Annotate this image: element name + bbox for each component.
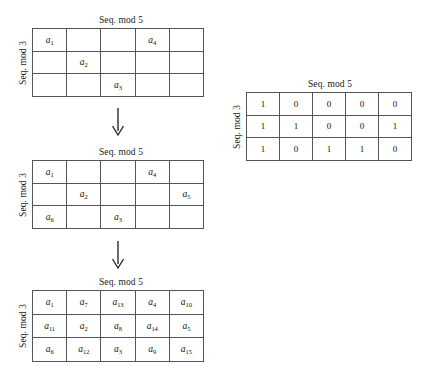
- table-row: a11 a2 a8 a14 a5: [33, 314, 204, 338]
- cell-value: a2: [80, 190, 88, 200]
- grid-cell: 1: [247, 93, 280, 116]
- cell-value: 0: [294, 100, 299, 109]
- grid-cell: a4: [135, 161, 169, 184]
- cell-value: a12: [78, 345, 89, 355]
- grid-cell: a5: [169, 183, 203, 206]
- table-row: a6 a3: [33, 206, 204, 229]
- grid-cell: a6: [33, 206, 67, 229]
- grid-cell: a2: [67, 314, 101, 338]
- table-row: a3: [33, 74, 204, 97]
- cell-value: a2: [80, 322, 88, 332]
- grid-cell: 0: [346, 115, 379, 138]
- table-row: 1 0 1 1 0: [247, 138, 412, 161]
- grid-cell: a8: [101, 314, 135, 338]
- column-axis-label-4: Seq. mod 5: [246, 78, 414, 90]
- grid-cell: a4: [135, 291, 169, 315]
- cell-value: a1: [46, 298, 54, 308]
- grid-cell: a7: [67, 291, 101, 315]
- cell-value: 1: [261, 145, 266, 154]
- cell-value: 0: [327, 122, 332, 131]
- grid-cell: 1: [247, 138, 280, 161]
- cell-value: a6: [46, 213, 54, 223]
- grid-cell: [101, 183, 135, 206]
- cell-value: a3: [114, 81, 122, 91]
- grid-cell: a9: [135, 338, 169, 362]
- grid-cell: 1: [313, 138, 346, 161]
- grid-table-2: a1 a4 a2 a5 a6 a3: [32, 160, 204, 229]
- row-axis-label-3: Seq. mod 3: [18, 304, 28, 348]
- arrow-down-2: [106, 240, 130, 270]
- grid-cell: 0: [313, 93, 346, 116]
- column-axis-label-1: Seq. mod 5: [32, 14, 210, 26]
- grid-cell: 1: [379, 115, 412, 138]
- table-row: a6 a12 a3 a9 a15: [33, 338, 204, 362]
- grid-area-2: Seq. mod 3 a1 a4 a2 a5: [32, 160, 204, 229]
- grid-table-3: a1 a7 a13 a4 a10 a11 a2 a8 a14 a5 a6 a12…: [32, 290, 204, 362]
- grid-cell: 0: [280, 138, 313, 161]
- grid-cell: a3: [101, 74, 135, 97]
- grid-cell: [101, 51, 135, 74]
- grid-cell: [169, 206, 203, 229]
- grid-cell: 1: [346, 138, 379, 161]
- cell-value: a11: [44, 322, 55, 332]
- grid-cell: [67, 74, 101, 97]
- cell-value: a13: [112, 298, 123, 308]
- panel-grid-step-1: Seq. mod 5 Seq. mod 3 a1 a4 a2: [14, 14, 210, 100]
- grid-cell: [67, 206, 101, 229]
- cell-value: 0: [360, 122, 365, 131]
- cell-value: 1: [327, 145, 332, 154]
- row-axis-label-wrap-2: Seq. mod 3: [15, 160, 31, 229]
- cell-value: 1: [393, 122, 398, 131]
- cell-value: a15: [181, 345, 192, 355]
- grid-cell: a13: [101, 291, 135, 315]
- row-axis-label-2: Seq. mod 3: [18, 172, 28, 216]
- row-axis-label-wrap-4: Seq. mod 3: [229, 92, 245, 161]
- grid-cell: 0: [280, 93, 313, 116]
- grid-cell: [33, 74, 67, 97]
- row-axis-label-1: Seq. mod 3: [18, 40, 28, 84]
- grid-cell: [169, 161, 203, 184]
- grid-cell: a1: [33, 291, 67, 315]
- grid-cell: a1: [33, 161, 67, 184]
- grid-cell: [135, 206, 169, 229]
- cell-value: 1: [261, 100, 266, 109]
- grid-cell: [67, 161, 101, 184]
- grid-cell: 0: [313, 115, 346, 138]
- cell-value: a4: [148, 298, 156, 308]
- grid-cell: a11: [33, 314, 67, 338]
- cell-value: a4: [148, 168, 156, 178]
- grid-cell: [135, 74, 169, 97]
- cell-value: a3: [114, 345, 122, 355]
- panel-grid-step-2: Seq. mod 5 Seq. mod 3 a1 a4 a2 a5: [14, 146, 210, 232]
- row-axis-label-wrap-3: Seq. mod 3: [15, 290, 31, 362]
- grid-cell: [169, 74, 203, 97]
- grid-area-1: Seq. mod 3 a1 a4 a2: [32, 28, 204, 97]
- column-axis-label-2: Seq. mod 5: [32, 146, 210, 158]
- cell-value: 0: [393, 100, 398, 109]
- grid-table-1: a1 a4 a2 a3: [32, 28, 204, 97]
- cell-value: 0: [360, 100, 365, 109]
- grid-table-4: 1 0 0 0 0 1 1 0 0 1 1 0 1 1: [246, 92, 412, 161]
- cell-value: a5: [182, 322, 190, 332]
- grid-cell: 1: [280, 115, 313, 138]
- grid-cell: [101, 29, 135, 52]
- grid-cell: [33, 51, 67, 74]
- table-row: 1 0 0 0 0: [247, 93, 412, 116]
- row-axis-label-wrap-1: Seq. mod 3: [15, 28, 31, 97]
- grid-area-4: Seq. mod 3 1 0 0 0 0 1 1 0 0 1: [246, 92, 412, 161]
- grid-cell: [169, 29, 203, 52]
- grid-cell: a1: [33, 29, 67, 52]
- cell-value: a10: [181, 298, 192, 308]
- cell-value: 0: [327, 100, 332, 109]
- table-row: 1 1 0 0 1: [247, 115, 412, 138]
- grid-cell: a10: [169, 291, 203, 315]
- grid-cell: a15: [169, 338, 203, 362]
- table-row: a1 a4: [33, 161, 204, 184]
- grid-cell: a5: [169, 314, 203, 338]
- table-row: a1 a7 a13 a4 a10: [33, 291, 204, 315]
- cell-value: 1: [360, 145, 365, 154]
- table-row: a1 a4: [33, 29, 204, 52]
- grid-cell: [135, 183, 169, 206]
- column-axis-label-3: Seq. mod 5: [32, 276, 210, 288]
- grid-cell: [135, 51, 169, 74]
